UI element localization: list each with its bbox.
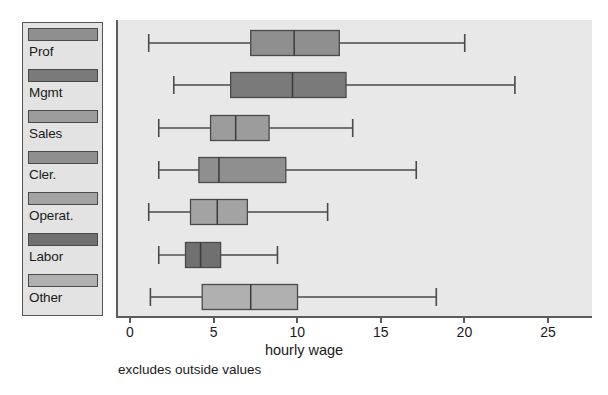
x-tick-label: 15 [373,324,389,340]
legend-swatch-mgmt [28,69,98,82]
boxplot-figure: Prof Mgmt Sales Cler. Operat. Labor Othe… [0,0,608,395]
x-tick-mark [380,316,382,323]
legend-label-mgmt: Mgmt [28,82,97,104]
legend-swatch-sales [28,110,98,123]
chart-footnote: excludes outside values [118,362,261,377]
x-tick-label: 20 [457,324,473,340]
legend-label-cler: Cler. [28,164,97,186]
x-tick-mark [296,316,298,323]
legend-item-sales: Sales [28,110,97,150]
x-tick-label: 5 [210,324,218,340]
x-tick-mark [129,316,131,323]
legend-item-other: Other [28,274,97,314]
x-tick-label: 0 [126,324,134,340]
x-tick-mark [547,316,549,323]
boxplot-group-sales [159,116,353,141]
legend-item-labor: Labor [28,233,97,273]
boxplot-group-cler [159,158,416,183]
boxplot-group-other [150,285,436,310]
legend-swatch-other [28,274,98,287]
boxplot-group-prof [149,31,465,56]
legend-label-labor: Labor [28,246,97,268]
legend-swatch-cler [28,151,98,164]
legend: Prof Mgmt Sales Cler. Operat. Labor Othe… [22,22,103,316]
legend-label-prof: Prof [28,41,97,63]
legend-label-other: Other [28,287,97,309]
boxplot-group-labor [159,243,278,268]
legend-swatch-prof [28,28,98,41]
legend-label-operat: Operat. [28,205,97,227]
legend-label-sales: Sales [28,123,97,145]
x-axis-line [116,316,592,318]
legend-item-cler: Cler. [28,151,97,191]
x-tick-mark [463,316,465,323]
x-tick-label: 10 [289,324,305,340]
boxplot-group-mgmt [174,73,515,98]
x-axis: 0510152025 [116,316,592,340]
x-tick-label: 25 [540,324,556,340]
legend-item-mgmt: Mgmt [28,69,97,109]
legend-swatch-labor [28,233,98,246]
boxplot-group-operat [149,200,328,225]
x-axis-label: hourly wage [0,342,608,358]
x-tick-mark [213,316,215,323]
legend-swatch-operat [28,192,98,205]
boxplot-canvas [118,20,594,316]
legend-item-operat: Operat. [28,192,97,232]
plot-area [116,20,592,316]
legend-item-prof: Prof [28,28,97,68]
